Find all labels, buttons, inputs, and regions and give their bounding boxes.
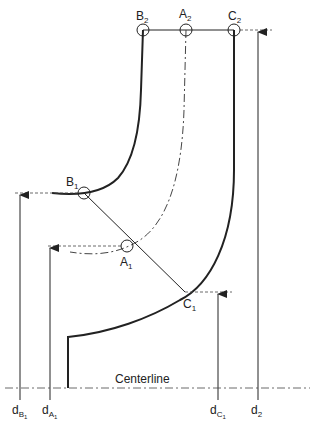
label-dA1: dA1 bbox=[42, 403, 58, 420]
label-A1: A1 bbox=[120, 255, 133, 271]
leading-edge-line bbox=[84, 193, 185, 292]
label-dB1: dB1 bbox=[12, 403, 28, 420]
label-d2: d2 bbox=[251, 403, 263, 419]
label-C1: C1 bbox=[183, 297, 197, 313]
label-dC1: dC1 bbox=[210, 403, 226, 420]
point-A1-marker bbox=[121, 240, 133, 252]
label-B2: B2 bbox=[136, 9, 149, 25]
impeller-diagram: B2 A2 C2 B1 A1 C1 Centerline dB1 dA1 dC1… bbox=[0, 0, 313, 431]
label-A2: A2 bbox=[179, 7, 192, 23]
centerline-label: Centerline bbox=[115, 372, 170, 386]
label-C2: C2 bbox=[228, 9, 242, 25]
shroud-curve bbox=[52, 30, 143, 194]
mean-streamline bbox=[70, 30, 186, 254]
hub-curve bbox=[68, 30, 234, 388]
label-B1: B1 bbox=[66, 175, 79, 191]
